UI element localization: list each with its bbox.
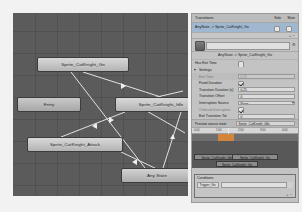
interruption-source-dropdown[interactable]: None bbox=[238, 101, 295, 106]
preview-source-label: Preview source state bbox=[195, 122, 226, 126]
conditions-box: Conditions Trigger_Go + − bbox=[194, 174, 296, 198]
ruler-tick: 3:00 bbox=[260, 128, 265, 132]
track-band bbox=[192, 134, 298, 141]
conditions-header: Conditions bbox=[197, 176, 214, 180]
property-transition-duration[interactable]: Transition Duration (s) 0.25 bbox=[192, 86, 298, 93]
property-fixed-duration[interactable]: Fixed Duration bbox=[192, 80, 298, 87]
transitions-list-header: Transitions Solo Mute bbox=[192, 14, 298, 23]
transition-preview-track[interactable]: Sprite_CatKnight_Idle Sprite_CatKnight_G… bbox=[192, 134, 298, 168]
property-exit-transition-tolerance[interactable]: Exit Transition Tol. 0 bbox=[192, 113, 298, 120]
transition-name: AnyState -> Sprite_CatKnight_Go bbox=[195, 25, 249, 29]
property-label: Transition Offset bbox=[199, 94, 224, 98]
transition-offset-input[interactable]: 0 bbox=[238, 94, 295, 99]
preview-source-dropdown[interactable]: Sprite_CatKnight_Idle bbox=[236, 121, 295, 126]
state-node-attack[interactable]: Sprite_CatKnight_Attack bbox=[27, 137, 123, 152]
ruler-tick: 4:00 bbox=[282, 128, 287, 132]
mute-checkbox[interactable] bbox=[286, 26, 292, 32]
chevron-down-icon bbox=[292, 102, 294, 104]
ruler-tick: 0:00 bbox=[194, 128, 199, 132]
state-node-label: Entry bbox=[44, 102, 55, 107]
property-transition-offset[interactable]: Transition Offset 0 bbox=[192, 93, 298, 100]
state-node-label: Sprite_CatKnight_Go bbox=[61, 62, 104, 67]
property-label: Transition Duration (s) bbox=[199, 88, 234, 92]
add-remove-condition[interactable]: + − bbox=[286, 192, 292, 197]
transition-blend-marker[interactable] bbox=[218, 134, 234, 141]
transition-duration-input[interactable]: 0.25 bbox=[238, 87, 295, 92]
property-label: Has Exit Time bbox=[195, 61, 217, 65]
property-label: Interruption Source bbox=[199, 101, 229, 105]
transition-list-item[interactable]: AnyState -> Sprite_CatKnight_Go bbox=[192, 23, 298, 33]
transition-name-input[interactable] bbox=[206, 42, 290, 50]
gear-icon[interactable]: ⚙ bbox=[292, 42, 296, 47]
condition-value-field[interactable] bbox=[221, 182, 287, 188]
property-label: Exit Transition Tol. bbox=[199, 114, 227, 118]
exit-time-input: 0.75 bbox=[238, 74, 295, 79]
ruler-tick: 1:00 bbox=[216, 128, 221, 132]
property-interruption-source[interactable]: Interruption Source None bbox=[192, 100, 298, 107]
animator-window: Sprite_CatKnight_Go Entry Sprite_CatKnig… bbox=[0, 0, 302, 212]
transition-subtitle: AnyState -> Sprite_CatKnight_Go bbox=[192, 52, 298, 60]
condition-parameter-dropdown[interactable]: Trigger_Go bbox=[197, 182, 219, 188]
state-node-label: Any State bbox=[147, 173, 167, 178]
condition-row[interactable]: Trigger_Go bbox=[197, 182, 293, 188]
settings-foldout[interactable]: Settings bbox=[192, 67, 298, 74]
preview-clip[interactable]: Sprite_CatKnight_Go bbox=[232, 154, 278, 160]
state-node-any-state[interactable]: Any State bbox=[121, 168, 188, 183]
solo-column-label: Solo bbox=[274, 16, 281, 20]
transition-inspector: Transitions Solo Mute AnyState -> Sprite… bbox=[191, 13, 299, 203]
state-node-idle[interactable]: Sprite_CatKnight_Idle bbox=[115, 97, 188, 112]
transition-name-bar: ⚙ bbox=[192, 39, 298, 52]
ruler-tick: 2:00 bbox=[238, 128, 243, 132]
mute-column-label: Mute bbox=[287, 16, 295, 20]
preview-source-bar[interactable]: Preview source state Sprite_CatKnight_Id… bbox=[192, 119, 298, 127]
state-node-go[interactable]: Sprite_CatKnight_Go bbox=[37, 57, 129, 72]
settings-label: Settings bbox=[199, 68, 212, 72]
state-node-entry[interactable]: Entry bbox=[17, 97, 81, 112]
state-node-label: Sprite_CatKnight_Idle bbox=[139, 102, 184, 107]
solo-checkbox[interactable] bbox=[274, 26, 280, 32]
property-label: Fixed Duration bbox=[199, 81, 222, 85]
exit-transition-tolerance-input[interactable]: 0 bbox=[238, 114, 295, 119]
state-node-label: Sprite_CatKnight_Attack bbox=[50, 142, 100, 147]
property-ordered-interruption: Ordered Interruption bbox=[192, 106, 298, 113]
property-has-exit-time[interactable]: Has Exit Time bbox=[192, 60, 298, 67]
property-exit-time: Exit Time 0.75 bbox=[192, 73, 298, 80]
add-remove-transition[interactable]: + − bbox=[289, 33, 295, 38]
property-label: Ordered Interruption bbox=[199, 108, 231, 112]
preview-clip[interactable]: Sprite_CatKnight_Go bbox=[216, 161, 258, 167]
property-label: Exit Time bbox=[199, 75, 213, 79]
transition-icon bbox=[195, 41, 205, 51]
chevron-down-icon bbox=[194, 69, 196, 71]
state-machine-canvas[interactable]: Sprite_CatKnight_Go Entry Sprite_CatKnig… bbox=[13, 13, 188, 196]
transitions-title: Transitions bbox=[195, 16, 213, 20]
